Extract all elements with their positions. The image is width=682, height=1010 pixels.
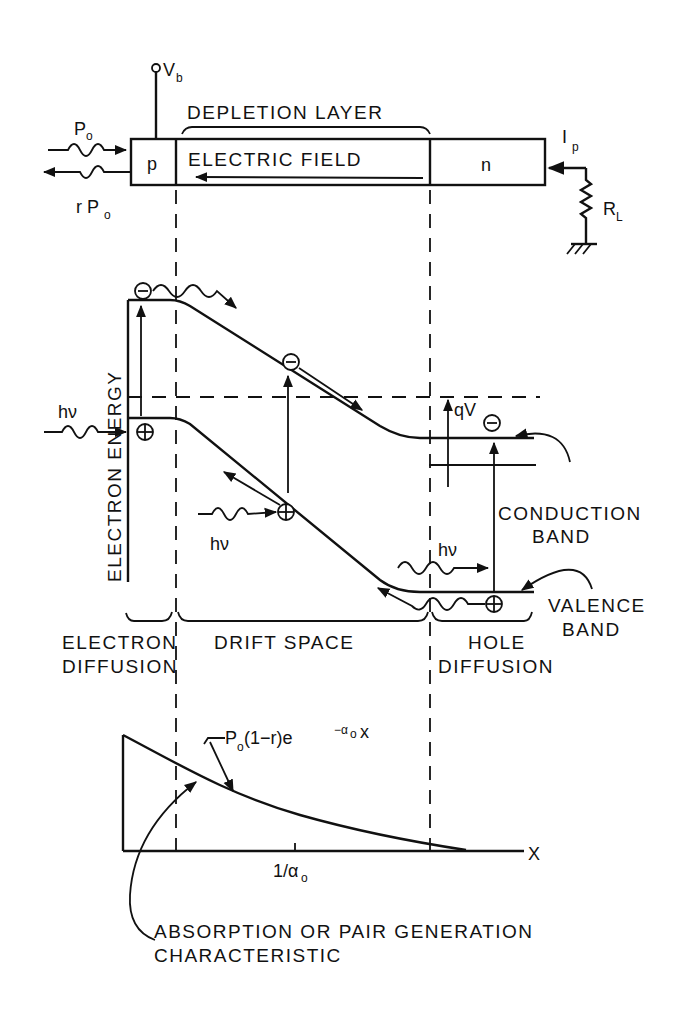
valence-band-label-2: BAND (562, 619, 621, 640)
conduction-band-label-2: BAND (532, 526, 591, 547)
drift-space-label: DRIFT SPACE (214, 632, 354, 653)
photon-label-middle: hν (210, 534, 229, 554)
svg-text:o: o (237, 740, 244, 754)
valence-band-edge (128, 418, 534, 592)
svg-text:o: o (350, 727, 357, 741)
reflected-power-label: r P (76, 197, 99, 217)
tick-label: 1/α (273, 861, 298, 881)
absorption-plot: X 1/α o P o (1−r)e −α o x ABSORPTION OR … (123, 722, 540, 966)
caption-line-2: CHARACTERISTIC (154, 945, 342, 966)
depletion-layer-label: DEPLETION LAYER (187, 102, 383, 123)
voltage-label: qV (454, 400, 476, 420)
bias-subscript: b (176, 71, 183, 85)
energy-axis-label: ELECTRON ENERGY (104, 371, 125, 582)
photon-label-right: hν (438, 540, 457, 560)
device-structure: V b DEPLETION LAYER p n ELECTRIC FIELD P… (44, 60, 623, 254)
absorption-curve (123, 735, 466, 850)
svg-text:(1−r)e: (1−r)e (244, 728, 293, 748)
conduction-band-label-1: CONDUCTION (498, 503, 642, 524)
electric-field-label: ELECTRIC FIELD (188, 149, 362, 170)
photodiode-diagram: V b DEPLETION LAYER p n ELECTRIC FIELD P… (0, 0, 682, 1010)
caption-line-1: ABSORPTION OR PAIR GENERATION (154, 921, 534, 942)
electric-field-arrow (196, 177, 423, 178)
reflected-light: r P o (44, 166, 131, 222)
hole-diffusion-label-2: DIFFUSION (438, 656, 554, 677)
n-region-label: n (481, 155, 491, 175)
region-labels: ELECTRON DIFFUSION DRIFT SPACE HOLE DIFF… (62, 612, 554, 677)
bias-terminal: V b (152, 60, 183, 139)
svg-text:o: o (301, 871, 308, 885)
svg-text:−α: −α (334, 723, 348, 737)
svg-text:x: x (360, 722, 369, 742)
p-region-label: p (147, 154, 157, 174)
incident-light: P o (48, 119, 126, 156)
incident-power-label: P (74, 119, 86, 139)
current-label: I (562, 127, 567, 147)
svg-text:o: o (104, 208, 111, 222)
bias-label: V (163, 60, 175, 80)
electron-diffusion-label-1: ELECTRON (62, 632, 177, 653)
x-axis-label: X (528, 844, 540, 864)
svg-text:p: p (572, 140, 579, 154)
load-circuit: I p R L (549, 127, 623, 254)
svg-text:L: L (616, 210, 623, 224)
energy-band-diagram: ELECTRON ENERGY hν hν qV (44, 283, 646, 640)
svg-text:o: o (86, 129, 93, 143)
hole-diffusion-label-1: HOLE (468, 632, 526, 653)
valence-band-label-1: VALENCE (548, 595, 646, 616)
electron-diffusion-label-2: DIFFUSION (62, 656, 178, 677)
photon-label-left: hν (58, 402, 77, 422)
load-resistor-label: R (603, 199, 616, 219)
absorption-formula: P (225, 728, 237, 748)
